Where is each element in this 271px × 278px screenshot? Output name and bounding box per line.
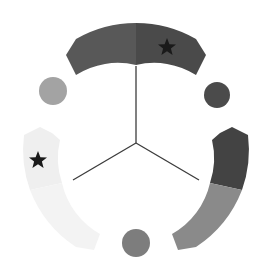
bottom-circle[interactable] bbox=[122, 229, 150, 257]
right-circle[interactable] bbox=[204, 82, 230, 108]
spoke-right bbox=[136, 143, 199, 180]
left-arc bbox=[23, 127, 100, 250]
left-lower-segment[interactable] bbox=[30, 183, 100, 250]
right-upper-segment[interactable] bbox=[210, 127, 249, 190]
spokes bbox=[73, 66, 199, 180]
top-left-segment[interactable] bbox=[66, 23, 136, 75]
spoke-left bbox=[73, 143, 136, 180]
right-lower-segment[interactable] bbox=[172, 183, 242, 250]
right-arc bbox=[172, 127, 249, 250]
left-circle[interactable] bbox=[39, 77, 67, 105]
radial-diagram bbox=[0, 0, 271, 278]
